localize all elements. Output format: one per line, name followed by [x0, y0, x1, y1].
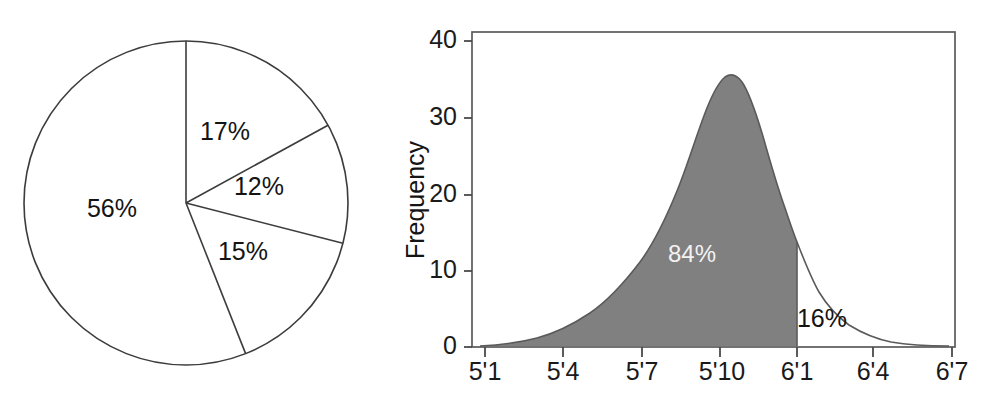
x-tick-label-6ft7: 6'7 [936, 357, 969, 385]
y-axis-tick-labels: 40 30 20 10 0 [429, 25, 457, 359]
pie-slice-label-56: 56% [87, 194, 137, 222]
distribution-chart-svg: 40 30 20 10 0 Frequency 5'1 5'4 [400, 0, 987, 413]
x-tick-label-5ft4: 5'4 [547, 357, 580, 385]
y-tick-label-0: 0 [443, 331, 457, 359]
x-axis-ticks [485, 347, 952, 357]
pie-slice-label-17: 17% [200, 117, 250, 145]
y-tick-label-30: 30 [429, 102, 457, 130]
distribution-chart-panel: 40 30 20 10 0 Frequency 5'1 5'4 [400, 0, 987, 413]
y-tick-label-20: 20 [429, 179, 457, 207]
x-tick-label-6ft1: 6'1 [781, 357, 814, 385]
y-tick-label-40: 40 [429, 25, 457, 53]
x-tick-label-5ft10: 5'10 [699, 357, 745, 385]
pie-chart-panel: 17% 12% 15% 56% [0, 0, 400, 413]
shaded-area-84-percent [480, 75, 797, 346]
unshaded-region-label-16: 16% [797, 304, 847, 332]
y-axis-title: Frequency [401, 140, 429, 259]
x-axis-tick-labels: 5'1 5'4 5'7 5'10 6'1 6'4 6'7 [469, 357, 969, 385]
y-axis-ticks [464, 41, 472, 347]
x-tick-label-5ft1: 5'1 [469, 357, 502, 385]
pie-slice-label-15: 15% [218, 237, 268, 265]
x-tick-label-6ft4: 6'4 [857, 357, 890, 385]
shaded-region-label-84: 84% [668, 240, 716, 267]
y-tick-label-10: 10 [429, 255, 457, 283]
pie-chart-svg: 17% 12% 15% 56% [0, 0, 400, 413]
pie-slice-label-12: 12% [234, 172, 284, 200]
x-tick-label-5ft7: 5'7 [626, 357, 659, 385]
figure-root: 17% 12% 15% 56% [0, 0, 987, 413]
